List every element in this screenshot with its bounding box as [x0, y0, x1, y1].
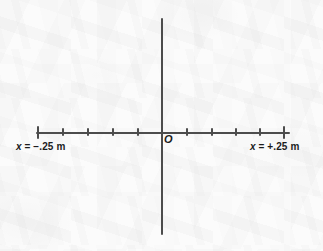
origin-label: O [164, 134, 173, 145]
axis-tick [211, 128, 213, 136]
axis-endpoint-tick [283, 126, 285, 139]
axis-tick [137, 128, 139, 136]
right-label-relation-value: = +.25 m [256, 141, 300, 152]
vertical-axis [161, 18, 163, 235]
axis-tick [186, 128, 188, 136]
right-axis-end-label: x = +.25 m [250, 142, 299, 152]
axis-tick [259, 128, 261, 136]
left-label-relation-value: = −.25 m [22, 141, 66, 152]
axis-tick [235, 128, 237, 136]
left-axis-end-label: x = −.25 m [16, 142, 65, 152]
axis-endpoint-tick [37, 126, 39, 139]
axis-tick [112, 128, 114, 136]
axis-tick [87, 128, 89, 136]
horizontal-axis [36, 132, 290, 134]
number-line-figure: O x = −.25 m x = +.25 m [0, 0, 323, 251]
axis-tick [62, 128, 64, 136]
